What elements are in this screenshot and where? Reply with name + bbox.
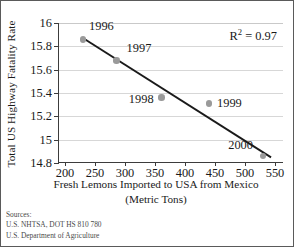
sources-line-1: U.S. NHTSA, DOT HS 810 780 bbox=[6, 220, 102, 230]
data-point-label: 1998 bbox=[129, 92, 154, 107]
r-squared-annotation: R2 = 0.97 bbox=[230, 27, 277, 44]
chart-figure: Total US Highway Fatality Rate 14.81515.… bbox=[0, 0, 294, 247]
data-point-marker bbox=[113, 57, 119, 63]
data-point-marker bbox=[158, 94, 164, 100]
y-tick-label: 15.4 bbox=[30, 86, 52, 101]
data-point-label: 2000 bbox=[228, 138, 253, 153]
y-axis-title-text: Total US Highway Fatality Rate bbox=[4, 20, 16, 167]
y-tick-label: 16 bbox=[40, 16, 52, 31]
sources-note: Sources: U.S. NHTSA, DOT HS 810 780 U.S.… bbox=[6, 210, 102, 241]
data-point-label: 1999 bbox=[217, 96, 242, 111]
data-point-label: 1996 bbox=[89, 19, 114, 34]
data-point-marker bbox=[80, 36, 86, 42]
y-tick-mark bbox=[54, 163, 59, 164]
y-tick-label: 15.2 bbox=[30, 109, 52, 124]
data-point-label: 1997 bbox=[127, 41, 152, 56]
x-axis-title-line2: (Metric Tons) bbox=[23, 192, 289, 207]
y-tick-label: 15.8 bbox=[30, 39, 52, 54]
plot-area: 14.81515.215.415.615.816 200250300350400… bbox=[58, 23, 283, 163]
sources-heading: Sources: bbox=[6, 210, 102, 220]
sources-line-2: U.S. Department of Agriculture bbox=[6, 231, 102, 241]
x-axis-title: Fresh Lemons Imported to USA from Mexico… bbox=[23, 177, 289, 206]
r-squared-value: = 0.97 bbox=[245, 29, 277, 43]
y-tick-label: 15.6 bbox=[30, 62, 52, 77]
y-axis-title: Total US Highway Fatality Rate bbox=[1, 1, 19, 186]
r-squared-symbol: R bbox=[230, 29, 238, 43]
x-axis-title-line1: Fresh Lemons Imported to USA from Mexico bbox=[53, 178, 258, 190]
r-squared-exponent: 2 bbox=[238, 27, 242, 37]
y-tick-label: 14.8 bbox=[30, 156, 52, 171]
y-tick-label: 15 bbox=[40, 132, 52, 147]
data-point-marker bbox=[206, 100, 212, 106]
